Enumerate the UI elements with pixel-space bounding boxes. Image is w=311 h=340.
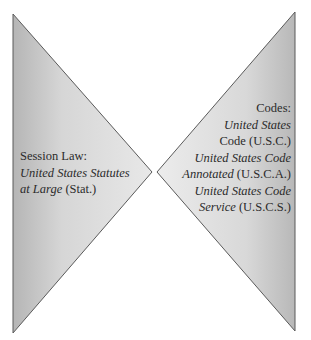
codes-label: Codes: United States Code (U.S.C.) Unite… xyxy=(182,100,291,216)
statutes-at-large-title-line1: United States Statutes xyxy=(20,165,130,182)
statutes-at-large-title-line2: at Large xyxy=(20,182,62,196)
usc-abbrev: (U.S.C.) xyxy=(249,134,291,148)
session-law-label: Session Law: United States Statutes at L… xyxy=(20,148,130,198)
diagram-canvas: Session Law: United States Statutes at L… xyxy=(0,0,311,340)
usc-title-line2: Code xyxy=(219,134,245,148)
usc-title-line1: United States xyxy=(182,117,291,134)
uscs-title-line2: Service xyxy=(199,200,236,214)
session-law-heading: Session Law: xyxy=(20,148,130,165)
usca-title-line2: Annotated xyxy=(182,167,233,181)
usca-abbrev: (U.S.C.A.) xyxy=(237,167,291,181)
usca-title-line1: United States Code xyxy=(182,150,291,167)
uscs-title-line1: United States Code xyxy=(182,183,291,200)
codes-heading: Codes: xyxy=(182,100,291,117)
uscs-abbrev: (U.S.C.S.) xyxy=(239,200,291,214)
statutes-at-large-abbrev: (Stat.) xyxy=(65,182,96,196)
